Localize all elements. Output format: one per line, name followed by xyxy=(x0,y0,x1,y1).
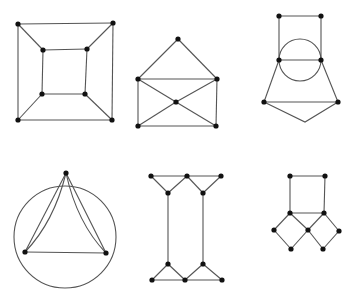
vertex-dot xyxy=(335,99,340,104)
vertex-dot xyxy=(318,57,323,62)
edge xyxy=(321,60,338,102)
vertex-dot xyxy=(82,91,87,96)
vertex-dot xyxy=(15,21,20,26)
vertex-dot xyxy=(336,228,341,233)
vertex-dot xyxy=(318,13,323,18)
vertex-dot xyxy=(214,76,219,81)
i-beam-graph xyxy=(148,173,224,282)
edge xyxy=(178,39,217,79)
vertex-dot xyxy=(22,249,27,254)
edge xyxy=(176,102,216,126)
edge xyxy=(138,79,176,102)
vertex-dot xyxy=(305,227,310,232)
graph-drawing-canvas xyxy=(0,0,353,297)
edge xyxy=(308,213,324,230)
edge xyxy=(151,176,168,193)
vertex-dot xyxy=(276,13,281,18)
vertex-dot xyxy=(175,36,180,41)
edge xyxy=(43,49,87,50)
edge xyxy=(264,60,279,102)
edge xyxy=(187,176,203,193)
vertex-dot xyxy=(213,123,218,128)
vertex-dot xyxy=(39,91,44,96)
square-diamonds-graph xyxy=(271,173,341,251)
vertex-dot xyxy=(287,210,292,215)
edge xyxy=(87,23,113,49)
graph-figure xyxy=(0,0,353,297)
cube-graph xyxy=(15,20,115,122)
edge xyxy=(18,24,43,50)
vertex-dot xyxy=(276,57,281,62)
vertex-dot xyxy=(135,123,140,128)
vertex-dot xyxy=(200,190,205,195)
edge xyxy=(168,264,185,280)
vertex-dot xyxy=(261,99,266,104)
path-edge xyxy=(264,102,338,122)
vertex-dot xyxy=(109,117,114,122)
edge xyxy=(308,230,323,249)
edge xyxy=(152,264,168,280)
edge xyxy=(203,264,222,280)
edge xyxy=(274,230,291,249)
edge xyxy=(25,252,106,253)
edge xyxy=(42,50,43,94)
vertex-dot xyxy=(287,173,292,178)
vertex-dot xyxy=(173,99,178,104)
vertex-dot xyxy=(84,46,89,51)
envelope-graph xyxy=(135,36,219,128)
edge xyxy=(291,230,308,249)
vertex-dot xyxy=(271,227,276,232)
vertex-dot xyxy=(148,173,153,178)
edge xyxy=(138,102,176,126)
edge xyxy=(25,173,66,252)
vertex-dot xyxy=(165,261,170,266)
vertex-dot xyxy=(184,173,189,178)
vertex-dot xyxy=(135,76,140,81)
edge xyxy=(216,79,217,126)
vertex-dot xyxy=(322,173,327,178)
vertex-dot xyxy=(288,246,293,251)
edge xyxy=(323,231,339,249)
edge xyxy=(203,176,221,193)
edge xyxy=(85,49,87,94)
circle-house-graph xyxy=(261,13,340,122)
edge xyxy=(324,213,339,231)
vertex-dot xyxy=(15,117,20,122)
vertex-dot xyxy=(320,246,325,251)
edge xyxy=(66,173,106,253)
circle-edge xyxy=(14,186,116,288)
vertex-dot xyxy=(149,277,154,282)
vertex-dot xyxy=(200,261,205,266)
edge xyxy=(85,94,112,120)
vertex-dot xyxy=(103,250,108,255)
vertex-dot xyxy=(165,190,170,195)
edge xyxy=(168,176,187,193)
vertex-dot xyxy=(321,210,326,215)
edge xyxy=(112,23,113,120)
vertex-dot xyxy=(219,277,224,282)
edge xyxy=(185,264,203,280)
edge xyxy=(138,39,178,79)
vertex-dot xyxy=(110,20,115,25)
edge xyxy=(274,213,290,230)
edge xyxy=(324,176,325,213)
vertex-dot xyxy=(63,170,68,175)
edge xyxy=(18,23,113,24)
vertex-dot xyxy=(182,277,187,282)
circle-triangle-multigraph xyxy=(14,170,116,288)
vertex-dot xyxy=(40,47,45,52)
edge xyxy=(18,94,42,120)
vertex-dot xyxy=(218,173,223,178)
edge xyxy=(176,79,217,102)
edge xyxy=(290,213,308,230)
